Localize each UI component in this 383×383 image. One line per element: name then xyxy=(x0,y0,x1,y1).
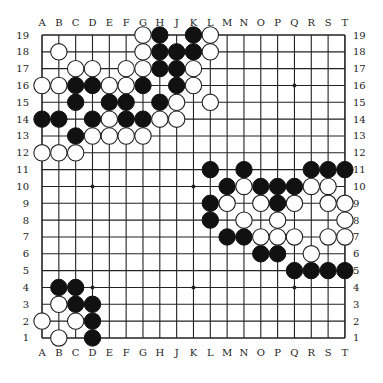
white-stone xyxy=(185,77,201,93)
row-label-left: 15 xyxy=(16,97,29,108)
white-stone xyxy=(286,195,302,211)
black-stone xyxy=(219,229,235,245)
column-label-top: C xyxy=(72,17,80,28)
row-label-right: 18 xyxy=(353,46,366,57)
row-label-left: 2 xyxy=(23,316,29,327)
column-label-bottom: S xyxy=(325,347,332,358)
row-label-left: 7 xyxy=(23,231,29,242)
column-label-bottom: R xyxy=(308,347,316,358)
column-label-bottom: O xyxy=(257,347,265,358)
black-stone xyxy=(84,330,100,346)
white-stone xyxy=(320,229,336,245)
white-stone xyxy=(320,195,336,211)
row-label-right: 4 xyxy=(353,282,359,293)
white-stone xyxy=(67,145,83,161)
column-label-bottom: H xyxy=(155,347,164,358)
white-stone xyxy=(269,229,285,245)
white-stone xyxy=(269,212,285,228)
column-label-bottom: K xyxy=(190,347,198,358)
row-label-left: 16 xyxy=(16,80,29,91)
black-stone xyxy=(67,296,83,312)
black-stone xyxy=(286,178,302,194)
white-stone xyxy=(101,128,117,144)
column-label-bottom: J xyxy=(174,347,179,358)
black-stone xyxy=(51,111,67,127)
row-label-left: 14 xyxy=(16,114,29,125)
black-stone xyxy=(67,94,83,110)
row-label-right: 9 xyxy=(353,198,359,209)
row-label-right: 6 xyxy=(353,248,359,259)
column-label-top: F xyxy=(123,17,130,28)
column-label-bottom: Q xyxy=(290,347,298,358)
row-label-right: 14 xyxy=(353,114,366,125)
row-label-left: 18 xyxy=(16,46,29,57)
row-label-right: 2 xyxy=(353,316,359,327)
column-label-bottom: F xyxy=(123,347,130,358)
black-stone xyxy=(202,212,218,228)
column-label-top: S xyxy=(325,17,332,28)
white-stone xyxy=(303,178,319,194)
row-label-left: 3 xyxy=(23,299,29,310)
black-stone xyxy=(269,178,285,194)
row-label-left: 17 xyxy=(16,63,29,74)
white-stone xyxy=(51,296,67,312)
white-stone xyxy=(168,111,184,127)
white-stone xyxy=(337,229,353,245)
row-label-right: 1 xyxy=(353,332,359,343)
black-stone xyxy=(84,111,100,127)
column-label-bottom: E xyxy=(106,347,113,358)
white-stone xyxy=(253,229,269,245)
white-stone xyxy=(51,330,67,346)
white-stone xyxy=(135,60,151,76)
column-label-bottom: N xyxy=(240,347,249,358)
black-stone xyxy=(320,161,336,177)
white-stone xyxy=(135,44,151,60)
black-stone xyxy=(51,279,67,295)
column-label-top: M xyxy=(222,17,232,28)
white-stone xyxy=(286,229,302,245)
white-stone xyxy=(219,195,235,211)
column-label-top: P xyxy=(274,17,281,28)
row-label-right: 15 xyxy=(353,97,366,108)
row-label-left: 11 xyxy=(16,164,29,175)
black-stone xyxy=(34,111,50,127)
black-stone xyxy=(67,128,83,144)
white-stone xyxy=(202,94,218,110)
white-stone xyxy=(34,77,50,93)
white-stone xyxy=(303,246,319,262)
go-board: AABBCCDDEEFFGGHHJJKKLLMMNNOOPPQQRRSSTT19… xyxy=(0,0,383,383)
white-stone xyxy=(135,27,151,43)
star-point xyxy=(90,184,94,188)
white-stone xyxy=(101,77,117,93)
row-label-left: 13 xyxy=(16,130,29,141)
black-stone xyxy=(320,262,336,278)
row-label-left: 4 xyxy=(23,282,29,293)
black-stone xyxy=(236,229,252,245)
white-stone xyxy=(34,145,50,161)
black-stone xyxy=(118,111,134,127)
column-label-bottom: T xyxy=(342,347,349,358)
black-stone xyxy=(152,27,168,43)
black-stone xyxy=(67,77,83,93)
row-label-right: 17 xyxy=(353,63,366,74)
column-label-bottom: M xyxy=(222,347,232,358)
white-stone xyxy=(320,178,336,194)
row-label-right: 12 xyxy=(353,147,366,158)
white-stone xyxy=(152,111,168,127)
white-stone xyxy=(84,128,100,144)
column-label-top: O xyxy=(257,17,265,28)
black-stone xyxy=(135,77,151,93)
row-label-left: 1 xyxy=(23,332,29,343)
white-stone xyxy=(51,44,67,60)
column-label-top: R xyxy=(308,17,316,28)
white-stone xyxy=(51,145,67,161)
black-stone xyxy=(67,279,83,295)
column-label-top: D xyxy=(88,17,96,28)
white-stone xyxy=(253,195,269,211)
black-stone xyxy=(84,313,100,329)
column-label-bottom: P xyxy=(274,347,281,358)
row-label-left: 8 xyxy=(23,215,29,226)
row-label-right: 7 xyxy=(353,231,359,242)
black-stone xyxy=(84,77,100,93)
star-point xyxy=(191,285,195,289)
